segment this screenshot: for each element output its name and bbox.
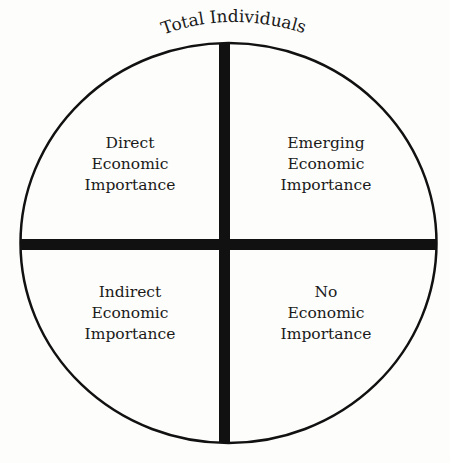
quadrant-indirect-economic-importance: Indirect Economic Importance [50, 282, 210, 345]
label-line: Importance [50, 175, 210, 196]
label-line: Economic [246, 303, 406, 324]
label-line: Emerging [246, 133, 406, 154]
label-line: Economic [50, 154, 210, 175]
label-line: Direct [50, 133, 210, 154]
horizontal-divider [20, 239, 437, 250]
label-line: No [246, 282, 406, 303]
label-line: Importance [246, 324, 406, 345]
label-line: Economic [50, 303, 210, 324]
diagram-title: Total Individuals [158, 6, 308, 38]
quadrant-direct-economic-importance: Direct Economic Importance [50, 133, 210, 196]
label-line: Importance [246, 175, 406, 196]
quadrant-circle-diagram: Total Individuals [0, 0, 450, 463]
label-line: Importance [50, 324, 210, 345]
label-line: Indirect [50, 282, 210, 303]
quadrant-emerging-economic-importance: Emerging Economic Importance [246, 133, 406, 196]
label-line: Economic [246, 154, 406, 175]
quadrant-no-economic-importance: No Economic Importance [246, 282, 406, 345]
